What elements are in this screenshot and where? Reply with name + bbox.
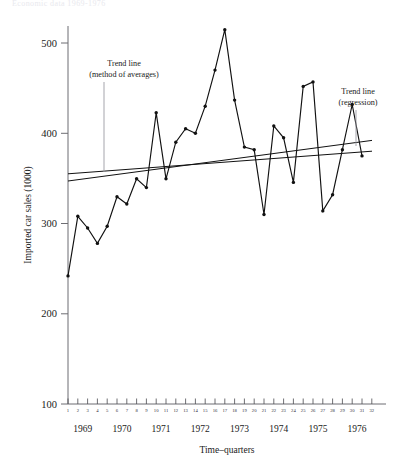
quarter-label: 18: [232, 408, 237, 413]
quarter-label: 12: [173, 408, 178, 413]
quarter-label: 3: [86, 408, 89, 413]
year-label: 1974: [269, 424, 288, 434]
quarter-label: 23: [281, 408, 286, 413]
quarter-label: 25: [301, 408, 306, 413]
trend-line-regression: [68, 151, 372, 174]
quarter-label: 28: [330, 408, 335, 413]
y-axis-title: Imported car sales (1000): [23, 166, 34, 263]
quarter-label: 10: [154, 408, 159, 413]
quarter-label: 6: [116, 408, 119, 413]
quarter-label: 30: [350, 408, 355, 413]
quarter-label: 20: [252, 408, 257, 413]
quarter-label: 7: [126, 408, 129, 413]
quarter-label: 16: [213, 408, 218, 413]
year-label: 1973: [230, 424, 249, 434]
quarter-label: 5: [106, 408, 109, 413]
quarter-label: 26: [311, 408, 316, 413]
quarter-label: 32: [369, 408, 374, 413]
y-axis-ticks: [61, 43, 68, 404]
quarter-label: 13: [183, 408, 188, 413]
x-axis-year-labels: 1969 1970 1971 1972 1973 1974 1975 1976: [73, 424, 367, 434]
quarter-label: 2: [77, 408, 80, 413]
annotation-right-line2: (regression): [338, 98, 377, 107]
y-tick-label: 500: [41, 38, 57, 49]
quarter-label: 1: [67, 408, 70, 413]
x-axis-ticks: [68, 399, 372, 405]
year-label: 1969: [73, 424, 92, 434]
year-label: 1975: [308, 424, 327, 434]
annotation-left-line1: Trend line: [107, 59, 141, 68]
annotation-left-line2: (method of averages): [89, 70, 159, 79]
year-label: 1976: [348, 424, 367, 434]
y-tick-label: 400: [41, 128, 57, 139]
x-axis-title: Time–quarters: [199, 445, 254, 455]
quarter-label: 22: [271, 408, 276, 413]
trend-line-method-of-averages: [68, 140, 372, 181]
y-axis-labels: 500 400 300 200 100: [41, 38, 57, 410]
chart-figure: Economic data 1969-1976 500 400 300 200 …: [0, 0, 401, 474]
y-tick-label: 300: [41, 218, 57, 229]
quarter-label: 9: [145, 408, 148, 413]
quarter-label: 24: [291, 408, 296, 413]
quarter-label: 15: [203, 408, 208, 413]
quarter-label: 14: [193, 408, 198, 413]
year-label: 1972: [191, 424, 210, 434]
quarter-label: 17: [222, 408, 227, 413]
year-label: 1970: [112, 424, 131, 434]
quarter-label: 11: [164, 408, 169, 413]
quarter-label: 29: [340, 408, 345, 413]
quarter-label: 21: [262, 408, 267, 413]
quarter-label: 19: [242, 408, 247, 413]
chart-svg: 500 400 300 200 100 Imported car sales (…: [0, 0, 401, 474]
y-tick-label: 100: [41, 399, 57, 410]
quarter-label: 31: [360, 408, 365, 413]
year-label: 1971: [152, 424, 171, 434]
y-tick-label: 200: [41, 308, 57, 319]
quarter-label: 4: [96, 408, 99, 413]
annotation-right-line1: Trend line: [341, 87, 375, 96]
x-axis-quarter-labels: 1 2 3 4 5 6 7 8 9 10 11 12 13 14 15 16 1…: [67, 408, 375, 413]
quarter-label: 8: [135, 408, 138, 413]
quarter-label: 27: [320, 408, 325, 413]
